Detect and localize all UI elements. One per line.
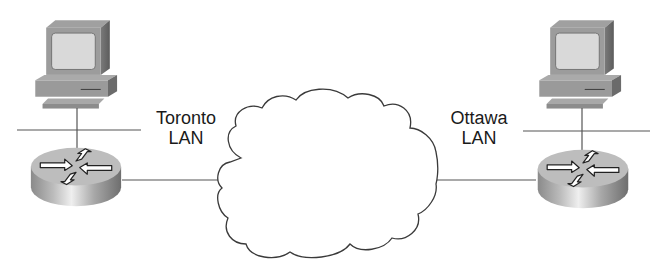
ottawa-workstation-icon — [539, 20, 621, 108]
network-diagram: Toronto LAN Ottawa LAN — [0, 0, 671, 276]
toronto-router-icon — [31, 148, 121, 206]
toronto-site — [17, 20, 141, 206]
ottawa-label-line2: LAN — [446, 128, 512, 148]
toronto-lan-label: Toronto LAN — [151, 108, 221, 148]
ottawa-router-icon — [538, 150, 629, 208]
toronto-workstation-icon — [35, 20, 117, 108]
ottawa-site — [523, 20, 650, 208]
ottawa-label-line1: Ottawa — [446, 108, 512, 128]
toronto-label-line1: Toronto — [151, 108, 221, 128]
toronto-label-line2: LAN — [151, 128, 221, 148]
diagram-canvas — [0, 0, 671, 276]
ottawa-lan-label: Ottawa LAN — [446, 108, 512, 148]
wan-cloud-icon — [218, 89, 438, 257]
